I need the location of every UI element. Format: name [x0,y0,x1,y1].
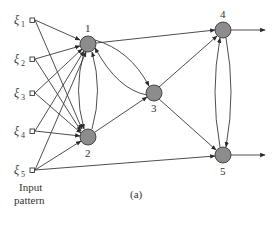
input-unit-3 [30,91,35,96]
neuron-label-4: 4 [220,8,226,20]
input-subscript: 1 [21,20,25,29]
neuron-label-2: 2 [85,147,91,159]
neuron-1 [80,36,96,52]
input-subscript: 5 [21,170,25,179]
network-edges [79,30,266,155]
input-symbol: ξ [14,13,20,27]
input-symbol: ξ [14,86,20,100]
input-unit-2 [30,57,35,62]
neuron-label-5: 5 [220,165,226,177]
neuron-5 [215,147,231,163]
input-unit-5 [30,168,35,173]
neuron-label-3: 3 [151,102,157,114]
recurrent-network-diagram: ξ 1 ξ 2 ξ 3 ξ 4 ξ 5 1 2 3 4 5 Input patt… [0,0,279,227]
figure-caption: (a) [130,188,143,201]
input-symbol: ξ [14,124,20,138]
input-edges [35,20,215,170]
neuron-4 [215,22,231,38]
input-subscript: 4 [21,131,25,140]
neuron-2 [80,129,96,145]
neuron-label-1: 1 [85,22,91,34]
input-symbol: ξ [14,163,20,177]
input-labels: ξ 1 ξ 2 ξ 3 ξ 4 ξ 5 [14,13,25,179]
input-unit-4 [30,129,35,134]
input-unit-1 [30,18,35,23]
input-pattern-label-line1: Input [19,181,42,193]
input-symbol: ξ [14,52,20,66]
input-subscript: 2 [21,59,25,68]
input-pattern-label-line2: pattern [14,194,45,206]
input-subscript: 3 [21,93,25,102]
input-units [30,18,35,173]
neuron-3 [146,85,162,101]
